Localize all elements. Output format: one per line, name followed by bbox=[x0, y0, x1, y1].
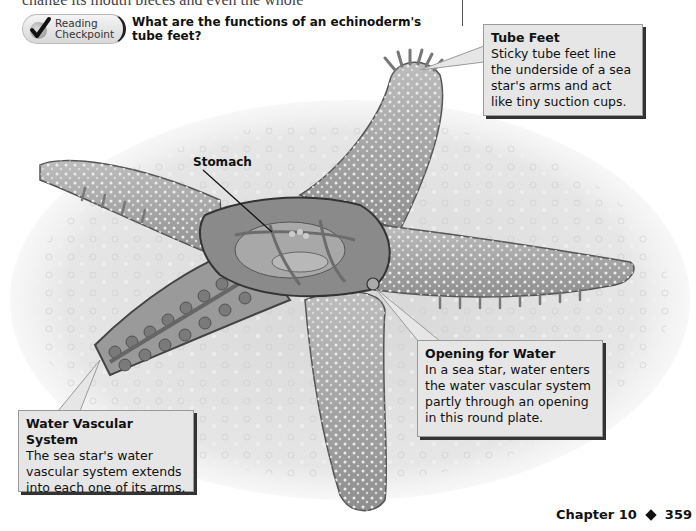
chapter-label: Chapter 10 bbox=[556, 507, 637, 522]
page-footer: Chapter 10 359 bbox=[556, 507, 692, 522]
callout-tube-feet: Tube Feet Sticky tube feet line the unde… bbox=[483, 24, 643, 116]
page-number: 359 bbox=[665, 507, 692, 522]
diamond-icon bbox=[645, 509, 656, 520]
callout-title: Water Vascular System bbox=[26, 416, 186, 448]
callout-body: Sticky tube feet line the underside of a… bbox=[491, 46, 635, 110]
callout-opening-for-water: Opening for Water In a sea star, water e… bbox=[417, 340, 603, 437]
madreporite-plate bbox=[367, 278, 379, 290]
callout-title: Tube Feet bbox=[491, 30, 635, 46]
callout-body: The sea star's water vascular system ext… bbox=[26, 448, 186, 496]
callout-title: Opening for Water bbox=[425, 346, 595, 362]
stomach-label: Stomach bbox=[193, 155, 252, 169]
callout-body: In a sea star, water enters the water va… bbox=[425, 362, 595, 426]
callout-water-vascular-system: Water Vascular System The sea star's wat… bbox=[18, 410, 194, 492]
